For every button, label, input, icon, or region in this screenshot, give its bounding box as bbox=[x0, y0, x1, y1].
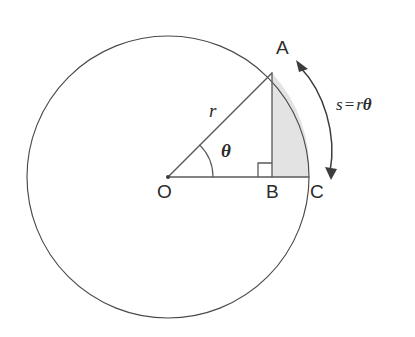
formula-r: r bbox=[356, 95, 363, 114]
arrow-head-upper-icon bbox=[296, 60, 308, 72]
formula-equals: = bbox=[343, 95, 357, 114]
label-radius-r: r bbox=[209, 101, 216, 120]
label-point-a: A bbox=[276, 38, 289, 57]
label-point-o: O bbox=[157, 182, 172, 201]
vertex-dot-o bbox=[166, 175, 170, 179]
formula-s: s bbox=[336, 95, 343, 114]
formula-theta: θ bbox=[363, 95, 372, 114]
radius-segment-oa bbox=[168, 73, 272, 177]
label-angle-theta: θ bbox=[221, 141, 231, 160]
angle-arc-theta bbox=[200, 145, 213, 177]
label-point-c: C bbox=[310, 182, 324, 201]
label-arc-length-formula: s=rθ bbox=[336, 96, 372, 113]
label-point-b: B bbox=[266, 182, 279, 201]
arrow-head-lower-icon bbox=[325, 167, 337, 180]
diagram-canvas bbox=[0, 0, 415, 337]
right-angle-marker bbox=[258, 163, 272, 177]
geometry-diagram: A B C O r θ s=rθ bbox=[0, 0, 415, 337]
